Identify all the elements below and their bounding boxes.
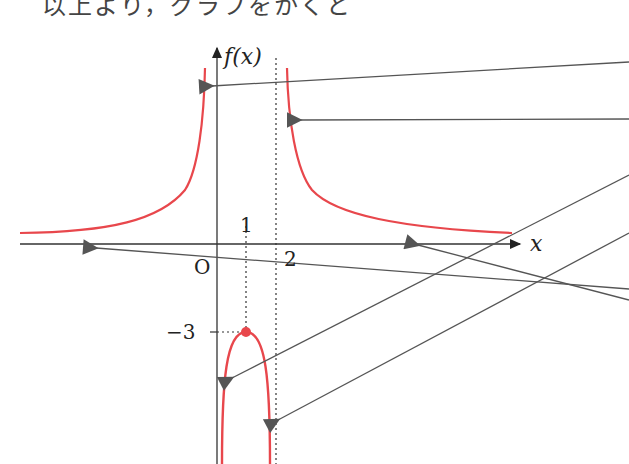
annotation-arrow: [96, 248, 629, 289]
x-axis-label: x: [530, 231, 543, 256]
curve-left-branch: [20, 68, 205, 233]
annotation-arrow: [278, 233, 629, 420]
curve-middle-branch: [222, 332, 270, 464]
function-graph: f(x) x O 1 2 −3: [0, 0, 629, 464]
origin-label: O: [194, 255, 210, 279]
curve-right-branch: [287, 68, 512, 233]
annotation-arrow: [418, 245, 629, 300]
y-axis-label: f(x): [222, 44, 262, 69]
tick-label-neg3: −3: [166, 320, 195, 344]
annotation-arrow: [212, 62, 629, 86]
annotation-arrow: [300, 119, 629, 120]
annotation-arrow: [232, 175, 629, 378]
tick-label-1: 1: [240, 213, 253, 237]
tick-label-2: 2: [284, 247, 297, 271]
local-max-point: [241, 327, 251, 337]
